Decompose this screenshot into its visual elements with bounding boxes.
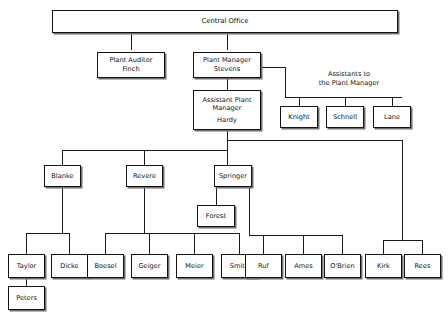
caption-assistants-line2: the Plant Manager [296, 79, 402, 88]
node-plant-manager[interactable]: Plant Manager Stevens [193, 52, 261, 78]
connector-plant-manager-right [261, 67, 285, 68]
connector-revere-children-bar [105, 233, 239, 234]
node-boesel[interactable]: Boesel [87, 254, 124, 278]
node-rees-name: Rees [415, 262, 431, 271]
connector-smith-drop [239, 233, 240, 254]
connector-dicke-drop [69, 233, 70, 254]
node-ruf-name: Ruf [258, 262, 269, 271]
node-blanke[interactable]: Blanke [44, 165, 81, 187]
connector-right-branch-bar [227, 140, 402, 141]
caption-assistants-to-plant-manager: Assistants to the Plant Manager [296, 70, 402, 88]
caption-assistants-line1: Assistants to [296, 70, 402, 79]
node-forest[interactable]: Forest [197, 205, 235, 227]
node-revere[interactable]: Revere [126, 165, 163, 187]
connector-springer-down [249, 187, 250, 235]
node-plant-auditor-title: Plant Auditor [109, 56, 152, 65]
node-lane-name: Lane [384, 113, 400, 122]
node-plant-manager-title: Plant Manager [203, 56, 251, 65]
connector-lane-drop [392, 97, 393, 106]
connector-meier-drop [194, 233, 195, 254]
node-forest-name: Forest [206, 212, 226, 221]
connector-assistants-drop [285, 67, 286, 97]
connector-central-office-bar [131, 33, 228, 34]
connector-ruf-drop [263, 235, 264, 254]
node-springer-name: Springer [219, 172, 247, 181]
node-springer[interactable]: Springer [214, 165, 252, 187]
connector-central-office-down [131, 33, 132, 50]
node-lane[interactable]: Lane [373, 106, 411, 128]
node-dicke-name: Dicke [60, 262, 78, 271]
node-revere-name: Revere [133, 172, 156, 181]
node-schnell-name: Schnell [333, 113, 357, 122]
node-plant-auditor-name: Finch [122, 65, 139, 74]
node-schnell[interactable]: Schnell [326, 106, 364, 128]
node-kirk-name: Kirk [377, 262, 390, 271]
node-plant-manager-name: Stevens [214, 65, 241, 74]
node-meier-name: Meier [185, 262, 203, 271]
node-blanke-name: Blanke [51, 172, 73, 181]
org-chart: Central Office Plant Auditor Finch Plant… [0, 0, 448, 320]
node-assistant-plant-manager-name: Hardy [217, 116, 237, 125]
connector-taylor-dicke-bar [26, 233, 69, 234]
connector-taylor-to-peters [26, 278, 27, 286]
connector-kirk-rees-bar [383, 240, 423, 241]
connector-taylor-drop [26, 233, 27, 254]
node-geiger-name: Geiger [138, 262, 160, 271]
connector-blanke-drop [62, 150, 63, 165]
connector-revere-drop [144, 150, 145, 165]
node-obrien-name: O'Brien [330, 262, 354, 271]
connector-schnell-drop [345, 97, 346, 106]
node-knight[interactable]: Knight [280, 106, 318, 128]
connector-plant-manager-to-assistant [227, 78, 228, 90]
connector-assistant-down [227, 130, 228, 165]
connector-geiger-drop [149, 233, 150, 254]
node-taylor[interactable]: Taylor [8, 254, 45, 278]
node-taylor-name: Taylor [17, 262, 37, 271]
connector-ames-drop [303, 235, 304, 254]
node-knight-name: Knight [288, 113, 309, 122]
node-kirk[interactable]: Kirk [365, 254, 402, 278]
node-geiger[interactable]: Geiger [131, 254, 168, 278]
node-rees[interactable]: Rees [404, 254, 441, 278]
connector-knight-drop [299, 97, 300, 106]
node-assistant-plant-manager-title-line2: Manager [212, 104, 241, 113]
node-peters[interactable]: Peters [8, 286, 45, 310]
node-obrien[interactable]: O'Brien [324, 254, 361, 278]
connector-right-branch-drop [402, 140, 403, 240]
node-ruf[interactable]: Ruf [245, 254, 282, 278]
node-plant-auditor[interactable]: Plant Auditor Finch [97, 52, 165, 78]
node-peters-name: Peters [16, 294, 37, 303]
connector-obrien-drop [342, 235, 343, 254]
connector-kirk-drop [383, 240, 384, 254]
node-ames[interactable]: Ames [285, 254, 322, 278]
connector-rees-drop [422, 240, 423, 254]
node-boesel-name: Boesel [94, 262, 116, 271]
node-assistant-plant-manager-title-line1: Assistant Plant [202, 96, 251, 105]
node-central-office[interactable]: Central Office [52, 10, 398, 33]
node-central-office-title: Central Office [201, 17, 248, 26]
node-dicke[interactable]: Dicke [51, 254, 88, 278]
connector-central-office-down-2 [227, 33, 228, 50]
node-ames-name: Ames [294, 262, 313, 271]
node-assistant-plant-manager[interactable]: Assistant Plant Manager Hardy [193, 90, 261, 130]
connector-boesel-drop [105, 233, 106, 254]
connector-springer-to-forest [216, 187, 217, 205]
connector-assistants-bar [285, 97, 402, 98]
node-meier[interactable]: Meier [176, 254, 213, 278]
connector-revere-down [144, 187, 145, 233]
connector-blanke-down [62, 187, 63, 233]
connector-division-bar [62, 150, 228, 151]
